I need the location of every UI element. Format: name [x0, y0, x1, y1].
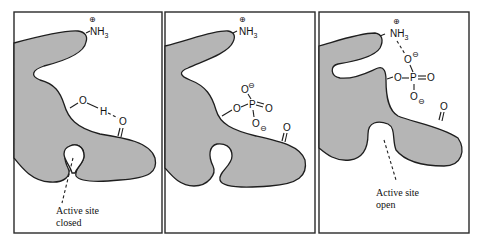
positive-charge-icon: ⊕	[239, 15, 246, 24]
double-bonded-oxygen: O	[265, 103, 273, 114]
negative-charge-icon: ⊖	[418, 97, 425, 106]
ester-oxygen: O	[233, 103, 241, 114]
ester-oxygen: O	[394, 72, 402, 83]
bottom-oxygen: O	[410, 91, 418, 102]
active-site-label-line2: open	[376, 199, 395, 210]
hydroxyl-hydrogen: H	[100, 106, 107, 117]
phosphorus: P	[410, 72, 417, 83]
hydroxyl-oxygen: O	[79, 95, 87, 106]
top-oxygen: O	[404, 54, 412, 65]
negative-charge-icon: ⊖	[412, 50, 419, 59]
negative-charge-icon: ⊖	[260, 124, 267, 133]
positive-charge-icon: ⊕	[89, 15, 96, 24]
double-bonded-oxygen: O	[427, 72, 435, 83]
positive-charge-icon: ⊕	[393, 17, 400, 26]
carbonyl-oxygen: O	[283, 122, 291, 133]
active-site-label-line1: Active site	[376, 187, 420, 198]
carbonyl-oxygen: O	[440, 101, 448, 112]
panel-phosphorylated: ⊕ NH3 O P O O ⊖ O ⊖ O	[165, 12, 315, 233]
active-site-label-line1: Active site	[56, 205, 100, 216]
bottom-oxygen: O	[252, 118, 260, 129]
active-site-label-line2: closed	[56, 217, 82, 228]
carbonyl-oxygen: O	[119, 116, 127, 127]
panel-active-site-closed: ⊕ NH3 O H O Active site closed	[14, 12, 162, 233]
panel-active-site-open: ⊕ NH3 O P O O ⊖ O ⊖ O Active site open	[319, 12, 469, 233]
phosphorus: P	[249, 99, 256, 110]
negative-charge-icon: ⊖	[248, 81, 255, 90]
figure-canvas: ⊕ NH3 O H O Active site closed ⊕ NH3 O P…	[0, 0, 482, 246]
